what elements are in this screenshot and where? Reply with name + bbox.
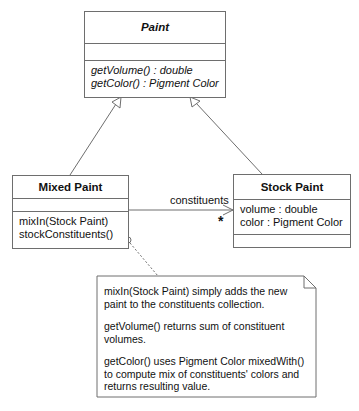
- association-role-label: constituents: [170, 194, 229, 206]
- operations-compartment: getVolume() : double getColor() : Pigmen…: [85, 60, 225, 92]
- note-paragraph: getVolume() returns sum of constituent v…: [104, 320, 309, 345]
- operations-compartment: [234, 234, 350, 247]
- class-stock-paint[interactable]: Stock Paint volume : double color : Pigm…: [233, 174, 351, 248]
- class-mixed-paint[interactable]: Mixed Paint mixIn(Stock Paint) stockCons…: [12, 175, 129, 249]
- note-paragraph: mixIn(Stock Paint) simply adds the new p…: [104, 285, 309, 310]
- class-name: Paint: [85, 12, 225, 43]
- attribute: color : Pigment Color: [240, 216, 344, 229]
- operation: stockConstituents(): [19, 228, 122, 241]
- generalization-stock-to-paint: [190, 97, 262, 174]
- hollow-triangle-arrowhead-icon: [112, 97, 121, 108]
- attributes-compartment: [85, 43, 225, 60]
- note-anchor: [125, 237, 158, 276]
- attribute: volume : double: [240, 203, 344, 216]
- note-paragraph: getColor() uses Pigment Color mixedWith(…: [104, 355, 309, 393]
- operations-compartment: mixIn(Stock Paint) stockConstituents(): [13, 211, 128, 243]
- operation: mixIn(Stock Paint): [19, 215, 122, 228]
- class-paint[interactable]: Paint getVolume() : double getColor() : …: [84, 11, 226, 98]
- class-name: Stock Paint: [234, 175, 350, 199]
- operation: getVolume() : double: [91, 64, 219, 77]
- attributes-compartment: volume : double color : Pigment Color: [234, 199, 350, 234]
- multiplicity-label: *: [218, 213, 223, 229]
- note-text: mixIn(Stock Paint) simply adds the new p…: [104, 285, 309, 403]
- attributes-compartment: [13, 198, 128, 211]
- operation: getColor() : Pigment Color: [91, 77, 219, 90]
- class-name: Mixed Paint: [13, 176, 128, 198]
- generalization-mixed-to-paint: [70, 97, 121, 175]
